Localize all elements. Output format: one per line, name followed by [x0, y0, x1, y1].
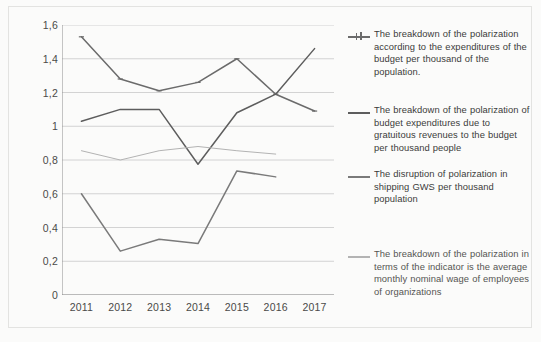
plot-svg	[62, 25, 334, 295]
y-tick-label: 0,2	[14, 256, 58, 266]
series-line-4	[81, 147, 275, 161]
legend-swatch-icon	[348, 31, 370, 43]
series-line-1	[81, 37, 314, 111]
gridlines	[62, 25, 334, 295]
legend-entry-1[interactable]: The breakdown of the polarization accord…	[348, 28, 532, 78]
x-tick-label: 2017	[302, 301, 326, 313]
x-tick-label: 2014	[186, 301, 210, 313]
legend-label: The breakdown of the polarization accord…	[374, 28, 532, 78]
plot-area	[62, 25, 334, 295]
x-tick-label: 2011	[70, 301, 93, 313]
x-tick-label: 2012	[108, 301, 132, 313]
data-series-layer	[79, 37, 317, 251]
y-tick-label: 0,6	[14, 189, 58, 199]
chart-legend: The breakdown of the polarization accord…	[348, 18, 532, 308]
legend-label: The disruption of polarization in shippi…	[374, 168, 532, 206]
legend-swatch-icon	[348, 251, 370, 263]
y-axis-tick-labels: 1,6 1,4 1,2 1 0,8 0,6 0,4 0,2 0	[10, 25, 58, 295]
legend-entry-2[interactable]: The breakdown of the polarization of bud…	[348, 104, 532, 154]
y-tick-label: 0	[14, 290, 58, 300]
x-axis-tick-labels: 2011201220132014201520162017	[62, 301, 334, 319]
line-chart-figure: 1,6 1,4 1,2 1 0,8 0,6 0,4 0,2 0 20112012…	[0, 0, 541, 342]
series-line-3	[81, 171, 275, 251]
legend-swatch-icon	[348, 171, 370, 183]
y-tick-label: 0,4	[14, 223, 58, 233]
legend-label: The breakdown of the polarization in ter…	[374, 248, 532, 298]
legend-cross-marker-icon	[356, 33, 364, 40]
legend-label: The breakdown of the polarization of bud…	[374, 104, 532, 154]
x-tick-label: 2015	[225, 301, 249, 313]
y-tick-label: 1,6	[14, 20, 58, 30]
y-tick-label: 1,4	[14, 54, 58, 64]
legend-entry-4[interactable]: The breakdown of the polarization in ter…	[348, 248, 532, 298]
legend-entry-3[interactable]: The disruption of polarization in shippi…	[348, 168, 532, 206]
y-tick-label: 0,8	[14, 155, 58, 165]
legend-swatch-icon	[348, 107, 370, 119]
x-tick-label: 2013	[147, 301, 171, 313]
y-tick-label: 1	[14, 121, 58, 131]
x-tick-label: 2016	[264, 301, 288, 313]
y-tick-label: 1,2	[14, 88, 58, 98]
